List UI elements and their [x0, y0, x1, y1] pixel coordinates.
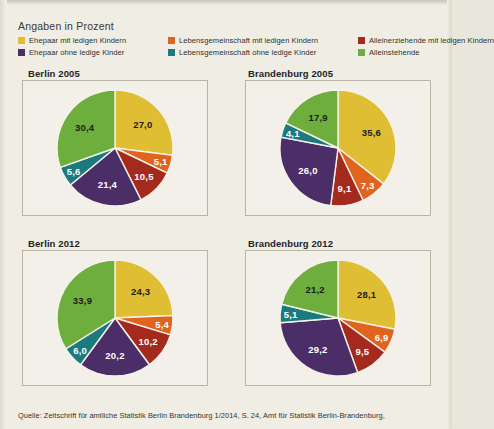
pie-slice-value-label: 28,1: [357, 289, 376, 300]
page-edge-right: [447, 0, 452, 429]
legend-item-label: Lebensgemeinschaft ohne ledige Kinder: [179, 48, 316, 57]
legend-swatch-icon: [358, 49, 365, 56]
legend-swatch-icon: [18, 37, 25, 44]
legend-item-alleinstehende: Alleinstehende: [358, 48, 494, 57]
legend-item-label: Ehepaar ohne ledige Kinder: [29, 48, 124, 57]
page-edge-left: [0, 0, 7, 429]
pie-slice-value-label: 17,9: [309, 111, 328, 122]
panel-title-berlin-2005: Berlin 2005: [28, 68, 80, 79]
pie-slice-value-label: 6,9: [375, 332, 389, 343]
legend-item-alleinerziehende: Alleinerziehende mit ledigen Kindern: [358, 36, 494, 45]
pie-chart-brandenburg-2005: 35,67,39,126,04,117,9: [245, 80, 431, 216]
pie-slice-value-label: 10,5: [134, 171, 153, 182]
pie-slice-value-label: 20,2: [105, 350, 124, 361]
pie-slice-value-label: 5,4: [155, 319, 169, 330]
pie-slice-value-label: 4,1: [286, 128, 300, 139]
pie-slice-value-label: 7,3: [361, 180, 375, 191]
page-edge-top: [0, 0, 452, 5]
legend-swatch-icon: [18, 49, 25, 56]
pie-chart-berlin-2005: 27,05,110,521,45,630,4: [22, 80, 208, 216]
panel-title-brandenburg-2012: Brandenburg 2012: [248, 238, 333, 249]
panel-title-brandenburg-2005: Brandenburg 2005: [248, 68, 333, 79]
pie-slice-value-label: 33,9: [73, 295, 92, 306]
legend: Angaben in Prozent Ehepaar mit ledigen K…: [18, 20, 438, 57]
pie-slice-value-label: 30,4: [75, 121, 94, 132]
pie-slice-value-label: 35,6: [362, 126, 381, 137]
legend-title: Angaben in Prozent: [18, 20, 438, 32]
legend-item-label: Ehepaar mit ledigen Kindern: [29, 36, 126, 45]
legend-items: Ehepaar mit ledigen KindernEhepaar ohne …: [18, 36, 438, 57]
pie-slice-value-label: 29,2: [308, 344, 327, 355]
pie-slice-value-label: 21,4: [98, 179, 117, 190]
legend-item-lg_mit_kindern: Lebensgemeinschaft mit ledigen Kindern: [168, 36, 358, 45]
pie-slice-value-label: 5,1: [284, 309, 298, 320]
pie-slice-value-label: 9,1: [338, 183, 352, 194]
legend-item-label: Alleinerziehende mit ledigen Kindern: [369, 36, 494, 45]
pie-slice-value-label: 5,6: [67, 166, 81, 177]
pie-chart-berlin-2012: 24,35,410,220,26,033,9: [22, 250, 208, 386]
legend-item-label: Alleinstehende: [369, 48, 420, 57]
legend-item-lg_ohne_kinder: Lebensgemeinschaft ohne ledige Kinder: [168, 48, 358, 57]
pie-slice-value-label: 26,0: [298, 164, 317, 175]
pie-slice-value-label: 6,0: [73, 345, 87, 356]
pie-slice-value-label: 5,1: [154, 156, 168, 167]
pie-chart-brandenburg-2012: 28,16,99,529,25,121,2: [245, 250, 431, 386]
legend-swatch-icon: [168, 49, 175, 56]
legend-item-ehepaar_mit_kindern: Ehepaar mit ledigen Kindern: [18, 36, 168, 45]
legend-item-ehepaar_ohne_kinder: Ehepaar ohne ledige Kinder: [18, 48, 168, 57]
panel-title-berlin-2012: Berlin 2012: [28, 238, 80, 249]
source-citation: Quelle: Zeitschrift für amtliche Statist…: [18, 411, 442, 421]
pie-slice-value-label: 27,0: [133, 118, 152, 129]
pie-slice-value-label: 21,2: [305, 283, 324, 294]
pie-slice-value-label: 24,3: [131, 286, 150, 297]
legend-swatch-icon: [358, 37, 365, 44]
legend-item-label: Lebensgemeinschaft mit ledigen Kindern: [179, 36, 318, 45]
legend-swatch-icon: [168, 37, 175, 44]
pie-slice-value-label: 10,2: [138, 336, 157, 347]
pie-slice-value-label: 9,5: [355, 345, 369, 356]
